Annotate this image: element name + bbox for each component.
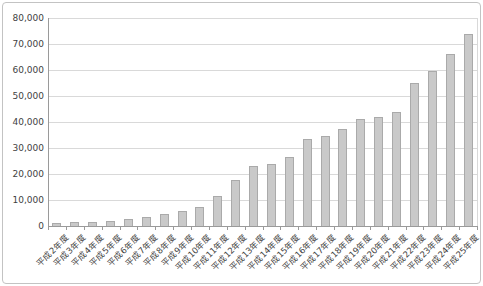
x-axis-tick-mark xyxy=(102,227,103,230)
bar xyxy=(428,71,437,226)
bar xyxy=(392,112,401,226)
x-axis-tick-mark xyxy=(370,227,371,230)
x-axis-tick-mark xyxy=(66,227,67,230)
y-axis-tick-label: 10,000 xyxy=(4,196,44,205)
bar xyxy=(249,166,258,226)
chart-frame: 010,00020,00030,00040,00050,00060,00070,… xyxy=(2,2,481,284)
bar xyxy=(70,222,79,226)
y-axis-tick-label: 30,000 xyxy=(4,144,44,153)
y-axis-tick-label: 0 xyxy=(4,222,44,231)
bar xyxy=(106,221,115,226)
x-axis-tick-mark xyxy=(352,227,353,230)
bar xyxy=(374,117,383,226)
x-axis-tick-mark xyxy=(441,227,442,230)
x-axis-tick-mark xyxy=(48,227,49,230)
x-axis-tick-mark xyxy=(263,227,264,230)
bar xyxy=(446,54,455,226)
x-axis-tick-mark xyxy=(477,227,478,230)
x-axis-tick-mark xyxy=(155,227,156,230)
x-axis-tick-mark xyxy=(298,227,299,230)
x-axis-tick-mark xyxy=(191,227,192,230)
x-axis-tick-mark xyxy=(227,227,228,230)
y-axis-line xyxy=(48,18,49,227)
x-axis-tick-mark xyxy=(280,227,281,230)
x-axis-tick-mark xyxy=(84,227,85,230)
bar xyxy=(88,222,97,226)
bar xyxy=(142,217,151,226)
x-axis-tick-mark xyxy=(423,227,424,230)
bar xyxy=(195,207,204,226)
bar xyxy=(338,129,347,226)
bar xyxy=(231,180,240,226)
x-axis-tick-mark xyxy=(209,227,210,230)
x-axis-tick-mark xyxy=(388,227,389,230)
bar xyxy=(160,214,169,226)
y-gridline xyxy=(48,44,477,45)
bar xyxy=(410,83,419,226)
bar xyxy=(356,119,365,226)
y-axis-tick-label: 60,000 xyxy=(4,66,44,75)
x-axis-tick-mark xyxy=(316,227,317,230)
y-axis-tick-label: 40,000 xyxy=(4,118,44,127)
y-axis-tick-label: 70,000 xyxy=(4,40,44,49)
y-axis-tick-label: 50,000 xyxy=(4,92,44,101)
bar xyxy=(178,211,187,226)
y-gridline xyxy=(48,70,477,71)
x-axis-tick-mark xyxy=(137,227,138,230)
bar xyxy=(285,157,294,226)
bar xyxy=(52,223,61,226)
x-axis-tick-mark xyxy=(459,227,460,230)
bar xyxy=(124,219,133,226)
x-axis-tick-mark xyxy=(406,227,407,230)
y-axis-tick-label: 80,000 xyxy=(4,14,44,23)
bar xyxy=(267,164,276,226)
bar xyxy=(464,34,473,226)
x-axis-tick-mark xyxy=(173,227,174,230)
x-axis-tick-mark xyxy=(120,227,121,230)
x-axis-tick-mark xyxy=(245,227,246,230)
plot-right-border xyxy=(477,18,478,226)
y-gridline xyxy=(48,18,477,19)
bar xyxy=(303,139,312,226)
bar xyxy=(321,136,330,226)
y-axis-tick-label: 20,000 xyxy=(4,170,44,179)
bar xyxy=(213,196,222,226)
x-axis-tick-mark xyxy=(334,227,335,230)
